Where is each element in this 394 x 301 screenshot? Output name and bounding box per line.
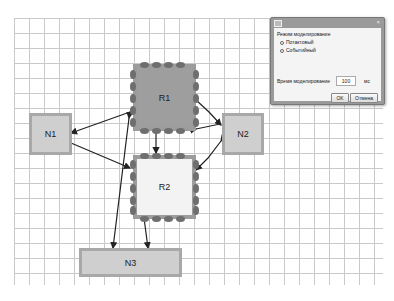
resource-r2-label: R2 [159,182,171,192]
resource-r1[interactable]: R1 [133,64,196,131]
radio-unselected-icon[interactable] [280,49,284,53]
dialog-body: Режим моделирование Потактовый Событийны… [274,28,381,101]
mode-option-step[interactable]: Потактовый [280,39,314,45]
mode-option-event-label: Событийный [286,47,316,53]
radio-selected-icon[interactable] [280,41,284,45]
time-label: Время моделирование [277,78,330,84]
node-n1[interactable]: N1 [29,113,72,155]
ok-button[interactable]: OK [331,93,349,103]
node-n3-label: N3 [125,258,137,268]
node-n1-label: N1 [45,129,57,139]
time-unit: мс [364,78,370,84]
dialog-titlebar[interactable]: × [271,18,384,27]
simulation-settings-dialog: × Режим моделирование Потактовый Событий… [270,17,385,105]
node-n2-label: N2 [237,129,249,139]
mode-group-label: Режим моделирование [277,31,330,37]
node-n2[interactable]: N2 [222,113,264,155]
mode-option-event[interactable]: Событийный [280,47,316,53]
node-n3[interactable]: N3 [79,248,182,277]
mode-option-step-label: Потактовый [286,39,314,45]
app-icon [274,20,282,27]
resource-r1-label: R1 [159,93,171,103]
time-input[interactable]: 100 [336,76,356,86]
close-icon[interactable]: × [376,18,380,26]
resource-r2[interactable]: R2 [133,155,196,219]
cancel-button[interactable]: Отмена [350,93,378,103]
